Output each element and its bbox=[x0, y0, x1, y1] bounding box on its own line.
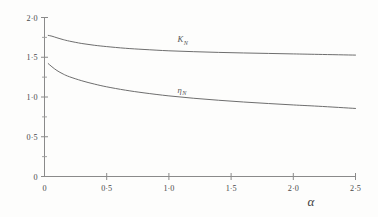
x-axis-tick-labels: 00·51·01·52·02·5 bbox=[42, 184, 361, 193]
x-axis-title: α bbox=[308, 194, 316, 209]
curve-label-eta-n: ηN bbox=[178, 85, 188, 96]
curve-eta-n bbox=[48, 64, 355, 109]
data-curves bbox=[48, 35, 355, 108]
x-tick-label: 2·5 bbox=[350, 184, 361, 193]
curve-labels: KNηN bbox=[177, 34, 189, 96]
x-tick-label: 1·0 bbox=[163, 184, 174, 193]
y-tick-label: 2·0 bbox=[27, 14, 38, 23]
y-tick-label: 1·5 bbox=[27, 53, 38, 62]
y-tick-label: 0 bbox=[33, 173, 37, 182]
x-tick-label: 0·5 bbox=[101, 184, 112, 193]
y-axis-tick-labels: 00·51·01·52·0 bbox=[27, 14, 38, 182]
x-tick-label: 2·0 bbox=[288, 184, 299, 193]
curve-label-k-n: KN bbox=[177, 34, 189, 45]
x-tick-label: 0 bbox=[42, 184, 46, 193]
x-tick-label: 1·5 bbox=[226, 184, 237, 193]
chart-axes bbox=[45, 18, 356, 177]
line-chart: 00·51·01·52·0 00·51·01·52·02·5 KNηN α bbox=[0, 0, 378, 217]
y-tick-label: 1·0 bbox=[27, 93, 38, 102]
figure-panel: 00·51·01·52·0 00·51·01·52·02·5 KNηN α bbox=[0, 0, 378, 217]
y-tick-label: 0·5 bbox=[27, 133, 38, 142]
curve-k-n bbox=[48, 35, 355, 55]
